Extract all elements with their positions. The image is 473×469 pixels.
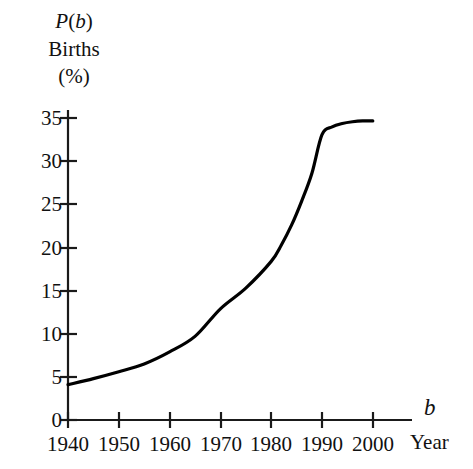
plot-area — [0, 0, 473, 469]
x-axis-name-label: Year — [410, 432, 449, 453]
y-tick-label-20: 20 — [20, 238, 62, 259]
data-series-curve — [68, 121, 373, 385]
y-tick-label-15: 15 — [20, 281, 62, 302]
axes — [67, 110, 412, 421]
x-tick-label-2000: 2000 — [343, 434, 403, 455]
y-tick-label-25: 25 — [20, 194, 62, 215]
y-tick-label-5: 5 — [20, 367, 62, 388]
chart-figure: P(b) Births (%) 3 — [0, 0, 473, 469]
y-tick-label-10: 10 — [20, 324, 62, 345]
y-tick-label-35: 35 — [20, 108, 62, 129]
y-tick-label-0: 0 — [20, 410, 62, 431]
x-axis-variable-label: b — [424, 396, 436, 419]
y-tick-label-30: 30 — [20, 151, 62, 172]
